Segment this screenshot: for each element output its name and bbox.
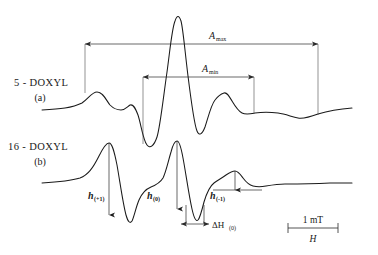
a-min-symbol: A <box>201 63 209 74</box>
h-zero-label: h (0) <box>147 190 160 203</box>
a-max-symbol: A <box>208 30 216 41</box>
h-plus1-subscript: (+1) <box>94 196 104 203</box>
h-zero-subscript: (0) <box>153 196 160 203</box>
a-max-guides <box>85 44 318 115</box>
epr-figure: 5 - DOXYL (a) 16 - DOXYL (b) A max A min… <box>0 0 378 255</box>
delta-h-label: ΔH (0) <box>212 220 236 232</box>
scale-bar-axis-label: H <box>309 234 318 244</box>
trace-a-group <box>42 17 352 147</box>
delta-h-symbol: ΔH <box>212 220 225 230</box>
a-max-label: A max <box>208 30 226 42</box>
a-max-subscript: max <box>216 36 226 42</box>
h-measure-lines <box>109 141 262 215</box>
a-min-subscript: min <box>209 69 218 75</box>
delta-h-markers <box>181 205 209 224</box>
trace-b-panel-label: (b) <box>34 156 46 168</box>
scale-bar-value-label: 1 mT <box>303 215 324 225</box>
delta-h-subscript: (0) <box>229 225 236 232</box>
h-minus1-label: h (-1) <box>210 190 225 203</box>
epr-spectrum-plot: 5 - DOXYL (a) 16 - DOXYL (b) A max A min… <box>0 0 378 255</box>
trace-b-curve <box>42 141 352 222</box>
trace-b-sample-label: 16 - DOXYL <box>8 141 68 152</box>
trace-b-group <box>42 141 352 222</box>
a-min-label: A min <box>201 63 218 75</box>
h-plus1-label: h (+1) <box>88 190 104 203</box>
trace-a-panel-label: (a) <box>34 92 45 104</box>
h-minus1-subscript: (-1) <box>216 196 225 203</box>
trace-a-sample-label: 5 - DOXYL <box>14 77 68 88</box>
trace-a-curve <box>42 17 352 147</box>
